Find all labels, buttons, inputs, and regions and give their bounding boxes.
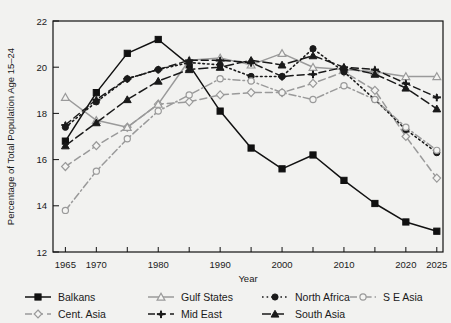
data-point-marker bbox=[217, 76, 223, 82]
plus-stem bbox=[436, 94, 438, 101]
data-point-marker bbox=[93, 90, 99, 96]
data-point-marker bbox=[35, 294, 41, 300]
x-tick-label: 1990 bbox=[210, 259, 231, 270]
data-point-marker bbox=[403, 124, 409, 130]
data-point-marker bbox=[341, 177, 347, 183]
data-point-marker bbox=[310, 152, 316, 158]
chart-background bbox=[0, 0, 451, 323]
y-tick-label: 20 bbox=[36, 62, 47, 73]
y-tick-label: 18 bbox=[36, 108, 47, 119]
x-tick-label: 1965 bbox=[55, 259, 76, 270]
chart-container: 1214161820221965197019801990200020102020… bbox=[0, 0, 451, 323]
data-point-marker bbox=[310, 96, 316, 102]
legend-label-south-asia: South Asia bbox=[295, 308, 345, 320]
data-point-marker bbox=[279, 90, 285, 96]
data-point-marker bbox=[93, 99, 99, 105]
y-tick-label: 14 bbox=[36, 200, 47, 211]
data-point-marker bbox=[186, 59, 192, 65]
data-point-marker bbox=[248, 145, 254, 151]
data-point-marker bbox=[272, 294, 278, 300]
data-point-marker bbox=[124, 76, 130, 82]
x-tick-label: 2010 bbox=[333, 259, 354, 270]
data-point-marker bbox=[279, 166, 285, 172]
data-point-marker bbox=[341, 83, 347, 89]
x-axis-title: Year bbox=[238, 273, 257, 284]
data-point-marker bbox=[217, 108, 223, 114]
plus-stem bbox=[160, 311, 162, 318]
legend-label-north-africa: North Africa bbox=[295, 291, 350, 303]
data-point-marker bbox=[124, 136, 130, 142]
y-tick-label: 22 bbox=[36, 16, 47, 27]
data-point-marker bbox=[186, 92, 192, 98]
data-point-marker bbox=[360, 294, 366, 300]
data-point-marker bbox=[62, 207, 68, 213]
data-point-marker bbox=[248, 78, 254, 84]
y-tick-label: 12 bbox=[36, 247, 47, 258]
data-point-marker bbox=[310, 46, 316, 52]
data-point-marker bbox=[403, 219, 409, 225]
y-tick-label: 16 bbox=[36, 154, 47, 165]
y-axis-title: Percentage of Total Population Age 15–24 bbox=[5, 48, 16, 225]
x-tick-label: 2000 bbox=[271, 259, 292, 270]
legend-label-cent-asia: Cent. Asia bbox=[58, 308, 106, 320]
data-point-marker bbox=[372, 200, 378, 206]
data-point-marker bbox=[434, 147, 440, 153]
data-point-marker bbox=[434, 228, 440, 234]
data-point-marker bbox=[279, 73, 285, 79]
data-point-marker bbox=[372, 96, 378, 102]
line-chart: 1214161820221965197019801990200020102020… bbox=[0, 0, 451, 323]
plus-stem bbox=[312, 71, 314, 78]
x-tick-label: 2020 bbox=[395, 259, 416, 270]
data-point-marker bbox=[62, 124, 68, 130]
data-point-marker bbox=[93, 168, 99, 174]
data-point-marker bbox=[124, 50, 130, 56]
legend-label-gulf-states: Gulf States bbox=[181, 291, 233, 303]
data-point-marker bbox=[155, 66, 161, 72]
legend-label-balkans: Balkans bbox=[58, 291, 95, 303]
data-point-marker bbox=[155, 108, 161, 114]
x-tick-label: 2025 bbox=[426, 259, 447, 270]
data-point-marker bbox=[155, 36, 161, 42]
legend-label-mid-east: Mid East bbox=[181, 308, 222, 320]
x-tick-label: 1980 bbox=[148, 259, 169, 270]
legend-label-s-e-asia: S E Asia bbox=[383, 291, 423, 303]
x-tick-label: 1970 bbox=[86, 259, 107, 270]
